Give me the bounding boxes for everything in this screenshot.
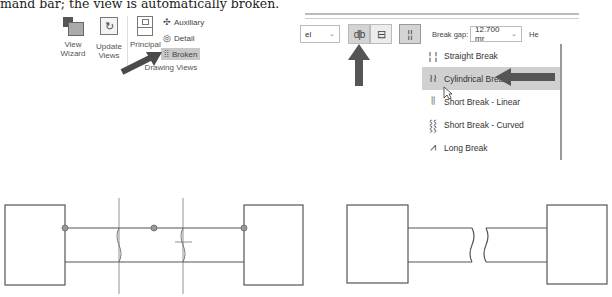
right-block	[547, 205, 607, 284]
handle-point	[151, 225, 157, 231]
caption-text: mand bar; the view is automatically brok…	[0, 0, 279, 11]
toolbar-divider	[305, 13, 579, 15]
drawing-view-before-break	[0, 190, 310, 297]
update-views-icon: ↻	[100, 17, 118, 35]
menu-item-short-break-curved[interactable]: ⸾⸾ Short Break - Curved	[422, 113, 560, 136]
handle-point	[62, 225, 68, 231]
chevron-down-icon: ⌄	[329, 30, 335, 38]
view-wizard-button[interactable]: ViewWizard	[56, 14, 90, 58]
short-break-curved-icon: ⸾⸾	[422, 117, 444, 132]
left-block	[347, 205, 408, 283]
detail-button[interactable]: ◎ Detail	[163, 33, 194, 43]
detail-icon: ◎	[163, 33, 171, 43]
break-style-button[interactable]: ¦¦	[399, 24, 421, 44]
long-break-icon: ⩘	[422, 141, 444, 154]
short-break-linear-icon: ⦚⦚	[422, 95, 444, 108]
right-block	[244, 205, 303, 285]
horizontal-break-button[interactable]: ⊟	[370, 24, 392, 44]
break-style-icon: ¦¦	[407, 28, 413, 40]
pointer-arrow-left-icon	[495, 67, 555, 87]
broken-view-button[interactable]: ⁞⁞ Broken	[161, 48, 200, 60]
style-combo[interactable]: el ⌄	[300, 25, 340, 43]
drawing-view-after-break	[330, 190, 612, 297]
mouse-cursor-icon	[443, 86, 453, 100]
principal-view-button[interactable]: Principal	[130, 14, 160, 49]
toolbar-divider	[305, 18, 579, 19]
view-wizard-icon	[63, 17, 83, 35]
handle-point	[241, 225, 247, 231]
vertical-break-button[interactable]: d|b	[348, 24, 370, 44]
view-wizard-label: ViewWizard	[56, 40, 90, 58]
break-gap-field[interactable]: 12.700 mr ⌄	[470, 26, 522, 42]
auxiliary-icon: ✣	[163, 17, 171, 27]
auxiliary-button[interactable]: ✣ Auxiliary	[163, 17, 204, 27]
pointer-arrow-icon	[118, 48, 166, 78]
pointer-arrow-up-icon	[348, 44, 370, 88]
menu-item-long-break[interactable]: ⩘ Long Break	[422, 136, 560, 159]
break-style-menu: ¦ ¦ Straight Break ≀≀ Cylindrical Break …	[422, 44, 562, 160]
cylindrical-break-icon: ≀≀	[422, 72, 444, 85]
principal-view-icon	[137, 16, 153, 36]
straight-break-icon: ¦ ¦	[422, 50, 444, 62]
vertical-break-icon: d|b	[354, 29, 365, 40]
break-gap-label: Break gap:	[432, 30, 468, 39]
height-label: He	[529, 30, 539, 39]
horizontal-break-icon: ⊟	[377, 28, 386, 41]
chevron-down-icon: ⌄	[511, 30, 517, 38]
left-block	[5, 205, 65, 285]
menu-item-straight-break[interactable]: ¦ ¦ Straight Break	[422, 44, 560, 67]
